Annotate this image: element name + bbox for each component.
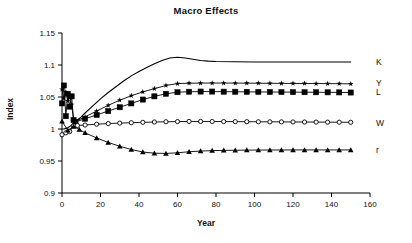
x-tick-label: 140 xyxy=(325,200,339,209)
x-tick-label: 120 xyxy=(286,200,300,209)
marker-square xyxy=(221,89,226,94)
marker-circle xyxy=(187,119,191,123)
marker-circle xyxy=(83,123,87,127)
marker-circle xyxy=(268,120,272,124)
series-Y xyxy=(59,80,353,124)
marker-square xyxy=(337,90,342,95)
marker-square xyxy=(69,94,74,99)
marker-circle xyxy=(118,121,122,125)
y-tick-label: 1.1 xyxy=(44,61,56,70)
marker-circle xyxy=(291,120,295,124)
marker-circle xyxy=(279,120,283,124)
x-tick-label: 20 xyxy=(96,200,105,209)
marker-circle xyxy=(141,120,145,124)
marker-square xyxy=(117,105,122,110)
marker-square xyxy=(140,97,145,102)
series-label-r: r xyxy=(376,145,379,155)
y-tick-label: 1 xyxy=(51,125,56,134)
marker-circle xyxy=(349,120,353,124)
marker-square xyxy=(63,114,68,119)
marker-circle xyxy=(152,120,156,124)
marker-square xyxy=(210,89,215,94)
series-K xyxy=(62,57,351,129)
marker-square xyxy=(314,90,319,95)
marker-square xyxy=(325,90,330,95)
series-line-K xyxy=(62,57,351,129)
marker-square xyxy=(94,112,99,117)
marker-square xyxy=(67,104,72,109)
series-label-L: L xyxy=(376,87,381,97)
marker-square xyxy=(233,89,238,94)
series-W xyxy=(60,119,353,137)
marker-square xyxy=(152,94,157,99)
y-tick-label: 0.9 xyxy=(44,189,56,198)
x-tick-label: 100 xyxy=(248,200,262,209)
marker-square xyxy=(186,89,191,94)
marker-circle xyxy=(302,120,306,124)
y-tick-label: 1.05 xyxy=(39,93,55,102)
marker-square xyxy=(256,89,261,94)
series-line-L xyxy=(62,85,351,121)
marker-circle xyxy=(75,123,79,127)
series-line-W xyxy=(62,121,351,134)
marker-star xyxy=(105,102,111,107)
series-L xyxy=(59,83,353,125)
marker-circle xyxy=(314,120,318,124)
marker-circle xyxy=(164,120,168,124)
marker-square xyxy=(129,101,134,106)
marker-circle xyxy=(337,120,341,124)
marker-square xyxy=(198,89,203,94)
marker-square xyxy=(163,91,168,96)
marker-circle xyxy=(256,120,260,124)
marker-square xyxy=(302,90,307,95)
x-axis: 020406080100120140160 xyxy=(60,193,377,209)
series-line-r xyxy=(62,121,351,153)
marker-circle xyxy=(233,120,237,124)
marker-triangle xyxy=(82,130,88,135)
x-tick-label: 80 xyxy=(212,200,221,209)
series-label-W: W xyxy=(376,118,384,128)
x-tick-label: 60 xyxy=(173,200,182,209)
marker-square xyxy=(348,90,353,95)
marker-square xyxy=(175,90,180,95)
y-tick-label: 1.15 xyxy=(39,29,55,38)
marker-circle xyxy=(210,119,214,123)
marker-square xyxy=(83,116,88,121)
marker-circle xyxy=(106,121,110,125)
marker-circle xyxy=(245,120,249,124)
marker-circle xyxy=(326,120,330,124)
y-axis: 0.90.9511.051.11.15 xyxy=(39,29,62,198)
series-line-Y xyxy=(62,83,351,121)
marker-square xyxy=(244,89,249,94)
marker-circle xyxy=(175,119,179,123)
plot-canvas: 0.90.9511.051.11.15 02040608010012014016… xyxy=(0,0,412,243)
x-tick-label: 160 xyxy=(363,200,377,209)
y-tick-label: 0.95 xyxy=(39,157,55,166)
marker-circle xyxy=(129,121,133,125)
series-layer xyxy=(59,57,353,155)
marker-square xyxy=(279,89,284,94)
series-label-K: K xyxy=(376,57,382,67)
x-tick-label: 40 xyxy=(135,200,144,209)
marker-square xyxy=(106,108,111,113)
marker-circle xyxy=(222,119,226,123)
marker-circle xyxy=(199,119,203,123)
marker-triangle xyxy=(59,119,65,124)
marker-circle xyxy=(95,122,99,126)
x-tick-label: 0 xyxy=(60,200,65,209)
marker-triangle xyxy=(94,135,100,140)
marker-square xyxy=(61,83,66,88)
macro-effects-chart: Macro Effects Index Year 0.90.9511.051.1… xyxy=(0,0,412,243)
marker-square xyxy=(59,101,64,106)
marker-square xyxy=(290,90,295,95)
series-labels: KYLWr xyxy=(376,57,384,155)
marker-square xyxy=(267,89,272,94)
